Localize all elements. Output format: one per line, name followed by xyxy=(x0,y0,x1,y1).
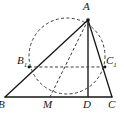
point-label-A: A xyxy=(83,1,90,17)
point-label-M: M xyxy=(43,99,52,115)
geometry-figure: A B1 C1 B M D C xyxy=(0,0,124,118)
segment-median-AM xyxy=(50,20,88,97)
point-label-M-text: M xyxy=(43,98,52,110)
dashed-circumscribed-circle xyxy=(29,18,105,94)
point-label-B1-sub: 1 xyxy=(24,61,28,69)
vertex-dot-B1 xyxy=(28,66,31,69)
point-label-B-text: B xyxy=(0,98,5,110)
point-label-D-text: D xyxy=(83,98,91,110)
point-label-D: D xyxy=(83,99,91,115)
point-label-B: B xyxy=(0,99,5,115)
point-label-A-text: A xyxy=(83,0,90,12)
point-label-C1-sub: 1 xyxy=(113,61,117,69)
point-label-C: C xyxy=(108,99,115,115)
point-label-C1: C1 xyxy=(106,55,117,71)
point-label-B1: B1 xyxy=(17,55,27,71)
vertex-dot-A xyxy=(86,18,90,22)
point-label-B1-text: B xyxy=(17,54,24,66)
point-label-C-text: C xyxy=(108,98,115,110)
